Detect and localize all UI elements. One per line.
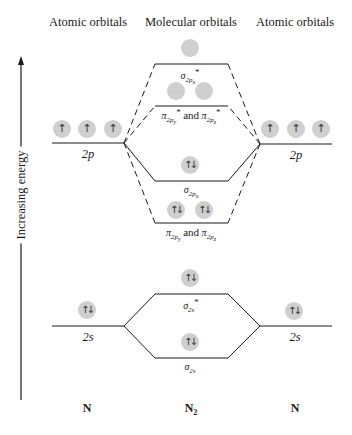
orbital-empty xyxy=(195,82,213,100)
left-2s-label: 2s xyxy=(82,330,93,345)
sigma-2s-star-label: σ2s* xyxy=(183,297,199,314)
orbital-electron-pair: ↑↓ xyxy=(181,333,199,351)
orbital-electron-pair: ↑↓ xyxy=(181,156,199,174)
orbital-electron-up: ↑ xyxy=(287,120,305,138)
pi-2p-label: π2py and π2pz xyxy=(166,226,216,242)
header-right-atomic-orbitals: Atomic orbitals xyxy=(256,15,334,30)
species-left: N xyxy=(83,401,92,416)
orbital-electron-pair: ↑↓ xyxy=(167,201,185,219)
orbital-electron-pair: ↑↓ xyxy=(78,301,96,319)
orbital-empty xyxy=(181,39,199,57)
right-2p-label: 2p xyxy=(290,148,303,163)
orbital-electron-pair: ↑↓ xyxy=(181,269,199,287)
orbital-electron-pair: ↑↓ xyxy=(285,302,303,320)
orbital-electron-up: ↑ xyxy=(104,120,122,138)
species-right: N xyxy=(291,401,300,416)
sigma-2px-label: σ2px xyxy=(184,184,199,199)
orbital-empty xyxy=(167,82,185,100)
header-left-atomic-orbitals: Atomic orbitals xyxy=(49,15,127,30)
orbital-electron-up: ↑ xyxy=(53,120,71,138)
orbital-electron-up: ↑ xyxy=(312,120,330,138)
orbital-electron-pair: ↑↓ xyxy=(195,201,213,219)
left-2p-label: 2p xyxy=(82,147,95,162)
orbital-electron-up: ↑ xyxy=(261,120,279,138)
orbital-electron-up: ↑ xyxy=(78,120,96,138)
pi-2p-star-label: π2py* and π2pz* xyxy=(162,107,221,126)
mo-diagram: Atomic orbitals Molecular orbitals Atomi… xyxy=(0,0,352,435)
energy-axis-label: Increasing energy xyxy=(14,147,29,244)
header-molecular-orbitals: Molecular orbitals xyxy=(145,15,237,30)
sigma-2px-star-label: σ2px* xyxy=(180,67,199,86)
sigma-2s-label: σ2s xyxy=(184,361,195,375)
right-2s-label: 2s xyxy=(289,330,300,345)
arrow-up-icon xyxy=(18,56,24,65)
species-center: N2 xyxy=(185,401,198,417)
